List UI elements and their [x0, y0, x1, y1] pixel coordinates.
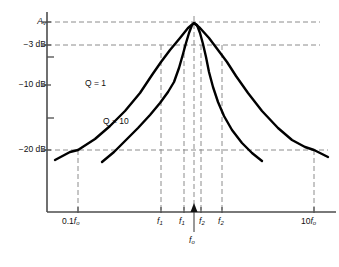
x-label-f2-q10: f2 — [199, 217, 205, 226]
x-label-point1fo: 0.1fo — [62, 217, 80, 226]
x-label-f1-q10: f1 — [179, 217, 185, 226]
curve-q1 — [55, 23, 328, 160]
y-label-av: Av — [37, 17, 46, 26]
curve-q10 — [102, 23, 262, 162]
bandpass-response-chart: Av −3 dB −10 dB −20 dB 0.1fo f1 f1 f2 f2… — [0, 0, 339, 267]
x-label-fo: fo — [189, 236, 195, 245]
y-label-minus20db: −20 dB — [19, 145, 46, 154]
x-label-10fo: 10fo — [301, 217, 316, 226]
x-label-f2-q1: f2 — [218, 217, 224, 226]
fo-pointer-arrow — [191, 203, 198, 232]
guide-lines — [47, 16, 328, 212]
curve-label-q10: Q = 10 — [103, 117, 129, 126]
chart-canvas — [0, 0, 339, 267]
curve-label-q1: Q = 1 — [85, 79, 106, 88]
x-label-f1-q1: f1 — [157, 217, 163, 226]
y-label-minus10db: −10 dB — [19, 80, 46, 89]
response-curves — [55, 23, 328, 162]
y-label-minus3db: −3 dB — [24, 40, 46, 49]
